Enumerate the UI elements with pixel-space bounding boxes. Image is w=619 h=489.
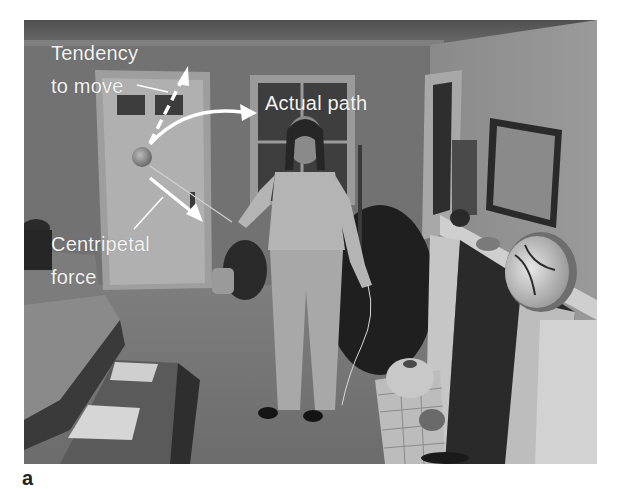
mantel-figurine <box>476 237 500 251</box>
door-window-right <box>155 95 183 115</box>
label-actual-path: Actual path <box>265 94 367 112</box>
woman-left-shoe <box>258 407 278 419</box>
woman-right-shoe <box>303 410 323 422</box>
woman-blouse <box>268 172 345 250</box>
fireplace-right-pillar <box>535 320 597 464</box>
door-window-left <box>117 95 145 115</box>
magazine-1 <box>110 362 158 382</box>
mantel-ornament <box>450 209 470 227</box>
wastebasket <box>212 268 234 294</box>
small-pot <box>419 409 445 431</box>
basket <box>421 452 469 464</box>
label-tendency-line1: Tendency <box>51 44 138 62</box>
living-room-photo: Tendency to move Actual path Centripetal… <box>24 20 597 464</box>
decorative-vase <box>505 236 569 308</box>
painting-canvas <box>493 126 555 220</box>
label-centripetal-line1: Centripetal <box>51 235 150 253</box>
label-centripetal-line2: force <box>51 268 96 286</box>
mantel-vase-tall <box>452 140 477 215</box>
label-tendency-line2: to move <box>51 77 124 95</box>
ball <box>132 147 152 167</box>
panel-letter: a <box>22 468 33 488</box>
right-door-opening <box>433 82 452 215</box>
side-table <box>24 230 52 270</box>
